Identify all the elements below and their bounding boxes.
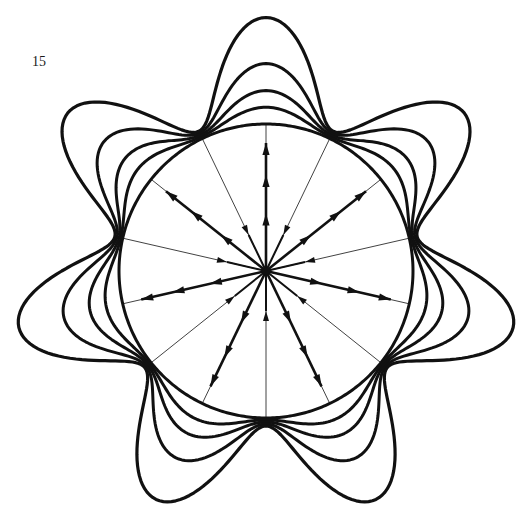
- arrowhead-icon: [262, 213, 269, 225]
- arrowhead-icon: [262, 143, 269, 155]
- arrow-spoke: [210, 271, 266, 386]
- arrowhead-icon: [283, 311, 291, 323]
- arrowhead-icon: [210, 278, 223, 285]
- arrowhead-icon: [263, 311, 269, 321]
- membrane-mode-diagram: [0, 0, 525, 527]
- center-hub: [262, 267, 270, 275]
- arrowhead-icon: [347, 286, 360, 293]
- arrowhead-icon: [224, 345, 232, 357]
- arrowhead-icon: [172, 286, 185, 293]
- arrow-spoke: [166, 191, 266, 271]
- arrowhead-icon: [310, 278, 323, 285]
- arrow-spoke: [266, 271, 322, 386]
- arrowhead-icon: [305, 257, 315, 263]
- arrowhead-icon: [141, 293, 154, 300]
- arrowhead-icon: [313, 374, 321, 386]
- arrowhead-icon: [210, 374, 218, 386]
- arrowhead-icon: [297, 296, 307, 305]
- arrowhead-icon: [217, 257, 227, 263]
- arrowhead-icon: [241, 311, 249, 323]
- arrowhead-icon: [262, 175, 269, 187]
- arrowhead-icon: [299, 345, 307, 357]
- arrowhead-icon: [378, 293, 391, 300]
- arrowhead-icon: [242, 225, 249, 235]
- arrowhead-icon: [225, 296, 235, 305]
- arrow-spoke: [266, 191, 366, 271]
- arrowhead-icon: [283, 225, 290, 235]
